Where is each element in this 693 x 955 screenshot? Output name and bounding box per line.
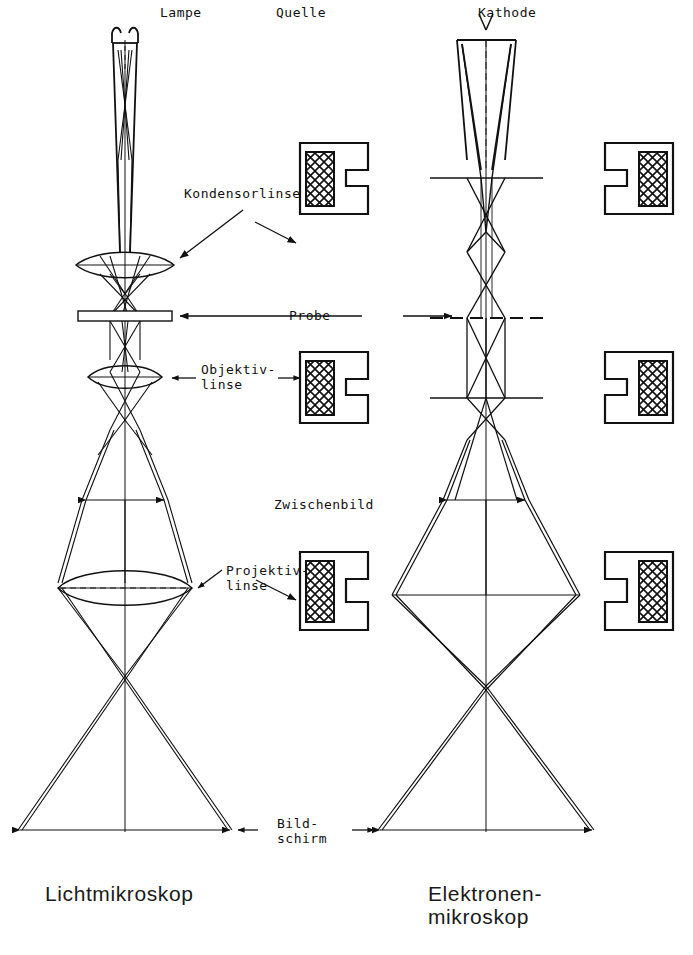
label-specimen: Probe	[289, 308, 331, 323]
label-condenser-lens: Kondensorlinse	[184, 186, 301, 201]
label-projective-lens: Projektiv- linse	[226, 563, 309, 593]
magnetic-lens-icon-projective-right	[605, 552, 673, 630]
source-label-left: Lampe	[160, 5, 202, 20]
caption-right: Elektronen- mikroskop	[428, 882, 542, 928]
magnetic-lens-icon-objective-right	[605, 352, 673, 423]
label-intermediate-image: Zwischenbild	[274, 497, 374, 512]
caption-left: Lichtmikroskop	[45, 882, 193, 905]
leader-condenser-left	[180, 210, 243, 258]
electron-microscope-column	[378, 14, 594, 832]
magnetic-lens-icon-projective-left	[300, 552, 368, 630]
rays-intermediate-projective-right	[392, 500, 580, 595]
leader-condenser-right-icon	[255, 222, 296, 243]
label-objective-lens: Objektiv- linse	[201, 362, 276, 392]
label-screen: Bild- schirm	[277, 816, 327, 846]
figure-canvas: Lampe Quelle Kathode Kondensorlinse Prob…	[0, 0, 693, 955]
specimen-slide-left	[78, 311, 172, 321]
leader-arrows	[172, 210, 452, 830]
magnetic-lens-icon-condenser-left	[300, 143, 368, 214]
optics-diagram-svg	[0, 0, 693, 955]
rays-specimen-objective-right	[467, 318, 505, 398]
magnetic-lens-icon-condenser-right	[605, 143, 673, 214]
source-label-right: Kathode	[478, 5, 536, 20]
light-microscope-column	[18, 28, 232, 832]
magnetic-lens-icon-objective-left	[300, 352, 368, 423]
source-label-center: Quelle	[276, 5, 326, 20]
leader-projective-left	[198, 570, 222, 588]
